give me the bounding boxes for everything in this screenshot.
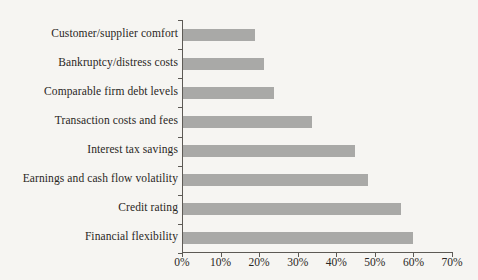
bar-chart-figure: Customer/supplier comfort Bankruptcy/dis… [0, 0, 478, 280]
x-axis-tick-label: 70% [429, 256, 475, 268]
x-axis-tick-labels: 0%10%20%30%40%50%60%70% [0, 0, 478, 280]
